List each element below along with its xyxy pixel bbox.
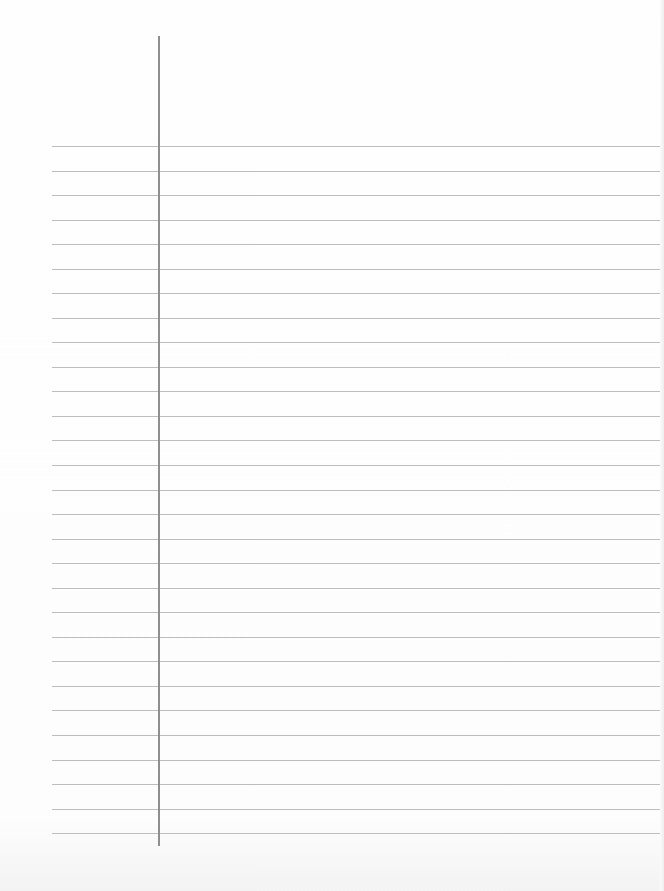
ruled-line [52, 735, 660, 736]
ruled-line [52, 391, 660, 392]
ruled-line [52, 661, 660, 662]
ruled-line [52, 220, 660, 221]
ruled-line [52, 760, 660, 761]
ruled-line [52, 269, 660, 270]
ruled-line [52, 588, 660, 589]
ruled-line [52, 293, 660, 294]
ruled-line [52, 563, 660, 564]
ruled-line [52, 342, 660, 343]
ruled-line [52, 710, 660, 711]
ruled-line [52, 539, 660, 540]
lined-paper [0, 0, 664, 891]
ruled-line [52, 686, 660, 687]
ruled-line [52, 465, 660, 466]
ruled-line [52, 416, 660, 417]
ruled-line [52, 244, 660, 245]
paper-edge [660, 0, 664, 891]
ruled-line [52, 146, 660, 147]
ruled-line [52, 440, 660, 441]
ruled-line [52, 171, 660, 172]
ruled-line [52, 833, 660, 834]
margin-line [158, 36, 160, 846]
ruled-line [52, 318, 660, 319]
ruled-line [52, 514, 660, 515]
ruled-line [52, 367, 660, 368]
ruled-line [52, 490, 660, 491]
ruled-line [52, 809, 660, 810]
ruled-line [52, 612, 660, 613]
ruled-line [52, 195, 660, 196]
ruled-line [52, 784, 660, 785]
ruled-line [52, 637, 660, 638]
